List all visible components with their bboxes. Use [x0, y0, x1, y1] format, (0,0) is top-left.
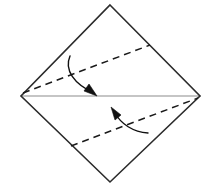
fold-diagram-container: A square sheet of paper shown rotated 45… [0, 0, 217, 185]
diagram-background [0, 0, 217, 185]
origami-fold-diagram [0, 0, 217, 185]
